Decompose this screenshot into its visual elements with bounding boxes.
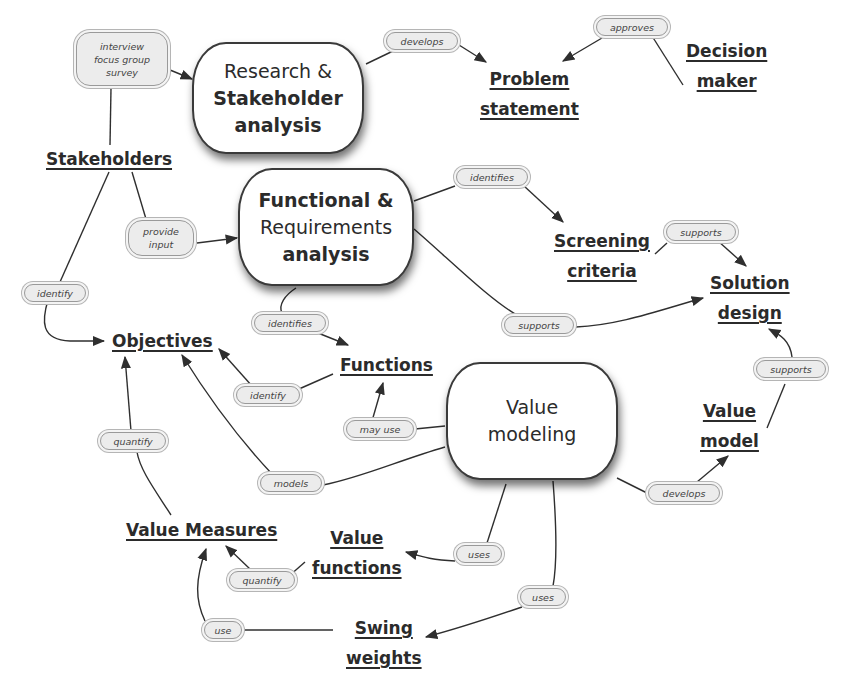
concept-label: statement <box>480 94 579 124</box>
node-label: Requirements <box>260 214 392 241</box>
concept-label: Decision <box>686 36 767 66</box>
quantify-objectives-cloud-label: quantify <box>100 432 166 450</box>
concept-label: Swing <box>346 613 422 643</box>
functional-requirements-analysis-node[interactable]: Functional & Requirements analysis <box>238 168 414 286</box>
node-label: analysis <box>282 241 369 268</box>
concept-label: Value Measures <box>126 515 277 545</box>
node-label: Value <box>506 394 558 421</box>
concept-label: Value <box>700 396 759 426</box>
concept-label: design <box>710 298 790 328</box>
models-cloud-label: models <box>260 474 322 492</box>
identifies-criteria-cloud-label: identifies <box>456 168 528 186</box>
value-modeling-node[interactable]: Value modeling <box>446 362 618 480</box>
develops-value-model-cloud-label: develops <box>648 484 720 502</box>
functions-concept[interactable]: Functions <box>340 350 433 380</box>
uses-value-functions-cloud-label: uses <box>456 545 502 563</box>
provide-input-cloud-label: provide input <box>128 220 194 256</box>
concept-label: Objectives <box>112 326 213 356</box>
value-model-concept[interactable]: Value model <box>700 396 759 456</box>
value-measures-concept[interactable]: Value Measures <box>126 515 277 545</box>
stakeholders-concept[interactable]: Stakeholders <box>46 144 172 174</box>
concept-label: Value <box>312 523 402 553</box>
identify-functions-cloud-label: identify <box>236 386 300 404</box>
decision-maker-concept[interactable]: Decision maker <box>686 36 767 96</box>
may-use-cloud-label: may use <box>346 420 414 438</box>
value-functions-concept[interactable]: Value functions <box>312 523 402 583</box>
concept-map-canvas: Research & Stakeholder analysis Function… <box>0 0 847 687</box>
screening-criteria-concept[interactable]: Screening criteria <box>554 226 650 286</box>
concept-label: Problem <box>480 64 579 94</box>
concept-label: maker <box>686 66 767 96</box>
concept-label: functions <box>312 553 402 583</box>
identify-cloud-label: identify <box>24 284 86 302</box>
concept-label: Functions <box>340 350 433 380</box>
concept-label: model <box>700 426 759 456</box>
use-cloud-label: use <box>204 621 242 639</box>
problem-statement-concept[interactable]: Problem statement <box>480 64 579 124</box>
supports-criteria-cloud-label: supports <box>666 223 736 241</box>
solution-design-concept[interactable]: Solution design <box>710 268 790 328</box>
uses-swing-weights-cloud-label: uses <box>520 588 566 606</box>
research-stakeholder-analysis-node[interactable]: Research & Stakeholder analysis <box>192 42 364 154</box>
supports-value-model-cloud-label: supports <box>756 360 826 378</box>
develops-cloud-label: develops <box>386 32 458 50</box>
concept-label: Solution <box>710 268 790 298</box>
concept-label: criteria <box>554 256 650 286</box>
supports-functional-cloud-label: supports <box>504 316 574 334</box>
objectives-concept[interactable]: Objectives <box>112 326 213 356</box>
swing-weights-concept[interactable]: Swing weights <box>346 613 422 673</box>
concept-label: weights <box>346 643 422 673</box>
methods-cloud-label: interview focus group survey <box>76 32 168 86</box>
concept-label: Screening <box>554 226 650 256</box>
node-label: Stakeholder <box>213 85 343 112</box>
identifies-functions-cloud-label: identifies <box>254 314 326 332</box>
approves-cloud-label: approves <box>596 18 668 36</box>
node-label: analysis <box>234 112 321 139</box>
quantify-measures-cloud-label: quantify <box>229 571 295 589</box>
node-label: Functional & <box>258 187 393 214</box>
node-label: Research & <box>224 58 332 85</box>
concept-label: Stakeholders <box>46 144 172 174</box>
node-label: modeling <box>488 421 577 448</box>
